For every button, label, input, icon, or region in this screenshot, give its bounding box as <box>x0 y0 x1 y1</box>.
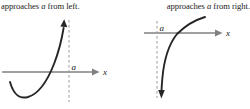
asymptote-label-right: a <box>160 23 165 33</box>
x-axis-label-left: x <box>102 67 107 77</box>
panel-right: approaches a from right. x a <box>125 0 250 109</box>
graph-left: x a <box>0 12 125 109</box>
caption-right: approaches a from right. <box>125 0 250 12</box>
graph-right: x a <box>125 12 250 109</box>
figure-container: approaches a from left. x a <box>0 0 250 109</box>
curve-right <box>158 17 205 99</box>
caption-left-prefix: approaches <box>1 1 41 11</box>
curve-left <box>10 19 67 97</box>
x-axis-right <box>144 30 223 37</box>
caption-left-suffix: from left. <box>46 1 80 11</box>
panel-left: approaches a from left. x a <box>0 0 125 109</box>
x-axis-label-right: x <box>225 28 230 38</box>
caption-right-prefix: approaches <box>167 1 207 11</box>
asymptote-label-left: a <box>72 62 77 72</box>
caption-left: approaches a from left. <box>0 0 126 12</box>
caption-right-suffix: from right. <box>211 1 250 11</box>
